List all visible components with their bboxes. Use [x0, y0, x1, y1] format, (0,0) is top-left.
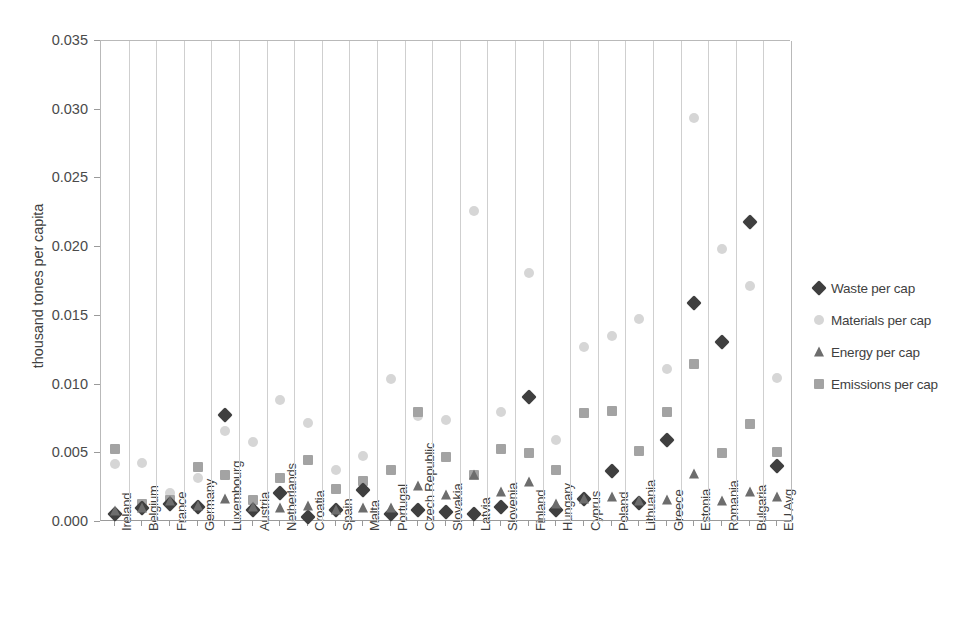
- data-point: [110, 444, 120, 454]
- data-point: [413, 481, 423, 491]
- gridline: [377, 41, 378, 522]
- x-tick-mark: [390, 521, 391, 526]
- x-tick-mark: [114, 521, 115, 526]
- data-point: [607, 492, 617, 502]
- gridline: [239, 41, 240, 522]
- legend-item-diamond[interactable]: Waste per cap: [812, 272, 952, 304]
- gridline: [791, 41, 792, 522]
- data-point: [331, 484, 341, 494]
- y-tick-label: 0.030: [20, 101, 88, 117]
- data-point: [275, 395, 285, 405]
- y-tick-mark: [94, 521, 100, 522]
- x-tick-mark: [776, 521, 777, 526]
- gridline: [653, 41, 654, 522]
- data-point: [496, 444, 506, 454]
- data-point: [413, 407, 423, 417]
- data-point: [331, 465, 341, 475]
- x-tick-mark: [279, 521, 280, 526]
- gridline: [349, 41, 350, 522]
- data-point: [769, 458, 785, 474]
- data-point: [524, 477, 534, 487]
- x-tick-mark: [638, 521, 639, 526]
- x-tick-mark: [721, 521, 722, 526]
- gridline: [322, 41, 323, 522]
- gridline: [625, 41, 626, 522]
- legend-item-triangle[interactable]: Energy per cap: [812, 336, 952, 368]
- data-point: [604, 463, 620, 479]
- data-point: [689, 468, 699, 478]
- data-point: [717, 448, 727, 458]
- y-tick-label: 0.020: [20, 238, 88, 254]
- y-tick-label: 0.010: [20, 376, 88, 392]
- y-tick-label: 0.015: [20, 307, 88, 323]
- data-point: [717, 496, 727, 506]
- gridline: [763, 41, 764, 522]
- data-point: [772, 447, 782, 457]
- gridline: [460, 41, 461, 522]
- data-point: [438, 505, 454, 521]
- gridline: [267, 41, 268, 522]
- data-point: [745, 419, 755, 429]
- data-point: [248, 501, 258, 511]
- data-point: [524, 268, 534, 278]
- data-point: [441, 415, 451, 425]
- data-point: [386, 374, 396, 384]
- data-point: [358, 451, 368, 461]
- gridline: [405, 41, 406, 522]
- legend-item-square[interactable]: Emissions per cap: [812, 368, 952, 400]
- y-tick-label: 0.005: [20, 444, 88, 460]
- data-point: [662, 364, 672, 374]
- x-tick-mark: [445, 521, 446, 526]
- y-tick-label: 0.000: [20, 513, 88, 529]
- data-point: [689, 113, 699, 123]
- data-point: [521, 389, 537, 405]
- data-point: [579, 342, 589, 352]
- data-point: [137, 458, 147, 468]
- data-point: [217, 407, 233, 423]
- data-point: [772, 492, 782, 502]
- data-point: [579, 408, 589, 418]
- x-tick-mark: [666, 521, 667, 526]
- circle-marker-icon: [812, 313, 826, 327]
- gridline: [294, 41, 295, 522]
- data-point: [579, 493, 589, 503]
- chart-legend: Waste per capMaterials per capEnergy per…: [812, 272, 952, 400]
- data-point: [717, 244, 727, 254]
- data-point: [687, 296, 703, 312]
- y-tick-label: 0.035: [20, 32, 88, 48]
- data-point: [220, 470, 230, 480]
- x-tick-mark: [252, 521, 253, 526]
- data-point: [248, 437, 258, 447]
- data-point: [303, 500, 313, 510]
- diamond-marker-icon: [812, 281, 826, 295]
- legend-item-label: Waste per cap: [831, 281, 915, 296]
- data-point: [742, 215, 758, 231]
- legend-item-circle[interactable]: Materials per cap: [812, 304, 952, 336]
- data-point: [634, 446, 644, 456]
- data-point: [634, 496, 644, 506]
- gridline: [515, 41, 516, 522]
- data-point: [772, 373, 782, 383]
- triangle-marker-icon: [812, 345, 826, 359]
- x-tick-mark: [362, 521, 363, 526]
- plot-area: [100, 40, 790, 521]
- legend-item-label: Emissions per cap: [831, 377, 938, 392]
- data-point: [110, 459, 120, 469]
- x-tick-mark: [528, 521, 529, 526]
- data-point: [634, 314, 644, 324]
- scatter-chart: thousand tones per capita 0.0000.0050.01…: [0, 0, 954, 644]
- data-point: [303, 418, 313, 428]
- data-point: [469, 470, 479, 480]
- legend-item-label: Materials per cap: [831, 313, 931, 328]
- square-marker-icon: [812, 377, 826, 391]
- data-point: [469, 206, 479, 216]
- gridline: [432, 41, 433, 522]
- data-point: [275, 473, 285, 483]
- data-point: [137, 503, 147, 513]
- data-point: [441, 489, 451, 499]
- data-point: [607, 406, 617, 416]
- data-point: [551, 465, 561, 475]
- gridline: [598, 41, 599, 522]
- data-point: [165, 496, 175, 506]
- data-point: [273, 485, 289, 501]
